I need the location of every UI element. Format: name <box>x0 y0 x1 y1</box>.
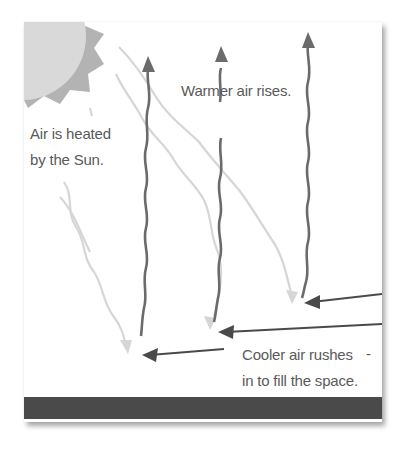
label-air-heated: Air is heated by the Sun. <box>30 121 111 173</box>
sun-icon <box>24 22 104 108</box>
heat-line-2 <box>116 74 221 317</box>
label-heated-line2: by the Sun. <box>30 147 111 173</box>
rising-arrowheads <box>142 32 315 72</box>
diagram-card: Air is heated by the Sun. Warmer air ris… <box>24 22 382 422</box>
arrow-up-icon <box>142 56 155 72</box>
heat-line-1 <box>64 182 126 347</box>
heat-arrowhead-1 <box>120 340 132 354</box>
inflow-arrow-bottom <box>150 349 224 355</box>
heat-arrowhead-3 <box>286 290 298 304</box>
rising-arrow-3 <box>302 42 309 298</box>
arrow-left-icon <box>304 295 320 309</box>
label-cooler-line2: in to fill the space. <box>242 368 358 394</box>
label-warmer-air-rises: Warmer air rises. <box>181 78 291 104</box>
arrow-up-icon <box>215 46 228 62</box>
dash-mark: - <box>366 345 371 362</box>
arrow-up-icon <box>302 32 315 48</box>
rising-arrow-1 <box>141 68 149 336</box>
label-heated-line1: Air is heated <box>30 121 111 147</box>
label-cooler-air: Cooler air rushes in to fill the space. <box>242 342 358 394</box>
inflow-arrow-top <box>312 294 382 302</box>
inflow-arrow-middle <box>226 324 382 332</box>
ground-bar <box>24 397 382 419</box>
arrow-left-icon <box>142 348 158 362</box>
label-cooler-line1: Cooler air rushes <box>242 342 358 368</box>
arrow-left-icon <box>218 325 234 339</box>
